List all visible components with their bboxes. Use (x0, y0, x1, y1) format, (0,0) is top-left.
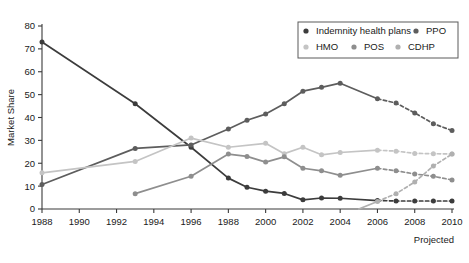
data-point-1-3 (226, 126, 231, 131)
data-point-0-12 (412, 198, 417, 203)
data-point-2-1 (133, 159, 138, 164)
legend-marker-0 (303, 28, 308, 33)
data-point-3-13 (450, 177, 455, 182)
data-point-3-10 (394, 168, 399, 173)
data-point-0-9 (338, 196, 343, 201)
data-point-1-5 (263, 112, 268, 117)
data-point-2-2 (189, 136, 194, 141)
data-point-1-8 (319, 85, 324, 90)
data-point-4-2 (394, 191, 399, 196)
x-tick-label: 2008 (404, 216, 425, 227)
y-axis-title: Market Share (5, 89, 16, 146)
x-tick-label: 2010 (441, 216, 462, 227)
data-point-0-1 (133, 101, 138, 106)
legend-marker-3 (351, 44, 356, 49)
data-point-4-5 (450, 152, 455, 157)
data-point-4-3 (412, 180, 417, 185)
data-point-1-9 (338, 81, 343, 86)
y-tick-label: 80 (24, 20, 35, 31)
x-tick-label: 2004 (330, 216, 351, 227)
x-tick-label: 1994 (143, 216, 164, 227)
x-tick-label: 1996 (181, 216, 202, 227)
data-point-2-4 (263, 141, 268, 146)
y-tick-label: 20 (24, 158, 35, 169)
data-point-0-7 (300, 197, 305, 202)
data-point-3-11 (412, 172, 417, 177)
data-point-3-9 (375, 166, 380, 171)
data-point-0-3 (226, 176, 231, 181)
x-tick-label: 1992 (106, 216, 127, 227)
x-tick-label: 1990 (69, 216, 90, 227)
data-point-3-3 (245, 154, 250, 159)
data-point-1-2 (189, 142, 194, 147)
data-point-2-12 (431, 151, 436, 156)
data-point-2-0 (40, 170, 45, 175)
data-point-0-13 (431, 198, 436, 203)
legend-label-2: HMO (316, 41, 338, 52)
data-point-1-14 (450, 128, 455, 133)
data-point-2-11 (412, 151, 417, 156)
data-point-4-1 (375, 199, 380, 204)
data-point-1-1 (133, 146, 138, 151)
data-point-3-4 (263, 160, 268, 165)
x-tick-label: 2002 (292, 216, 313, 227)
data-point-3-5 (282, 154, 287, 159)
data-point-2-6 (300, 145, 305, 150)
legend-marker-2 (303, 44, 308, 49)
data-point-2-10 (394, 149, 399, 154)
data-point-0-14 (450, 198, 455, 203)
data-point-0-5 (263, 189, 268, 194)
data-point-3-1 (189, 174, 194, 179)
legend-marker-4 (395, 44, 400, 49)
data-point-1-7 (300, 89, 305, 94)
data-point-0-0 (40, 40, 45, 45)
legend-label-3: POS (364, 41, 384, 52)
data-point-3-7 (319, 168, 324, 173)
data-point-2-3 (226, 145, 231, 150)
legend-marker-1 (413, 28, 418, 33)
legend-label-4: CDHP (408, 41, 435, 52)
y-tick-label: 0 (30, 203, 35, 214)
data-point-1-4 (245, 118, 250, 123)
data-point-1-10 (375, 96, 380, 101)
series-line-0 (42, 42, 377, 201)
data-point-3-0 (133, 191, 138, 196)
data-point-2-8 (338, 150, 343, 155)
data-point-3-12 (431, 174, 436, 179)
series-line-4 (359, 201, 378, 209)
data-point-1-0 (40, 182, 45, 187)
x-tick-label: 1988 (31, 216, 52, 227)
data-point-3-2 (226, 152, 231, 157)
data-point-1-6 (282, 101, 287, 106)
data-point-0-8 (319, 196, 324, 201)
legend-label-1: PPO (426, 25, 446, 36)
data-point-0-4 (245, 185, 250, 190)
x-tick-label: 2006 (367, 216, 388, 227)
data-point-0-11 (394, 198, 399, 203)
data-point-0-6 (282, 191, 287, 196)
y-tick-label: 40 (24, 112, 35, 123)
y-tick-label: 10 (24, 181, 35, 192)
data-point-3-6 (300, 166, 305, 171)
y-tick-label: 50 (24, 89, 35, 100)
series-line-1 (42, 83, 377, 184)
data-point-3-8 (338, 173, 343, 178)
x-tick-label: 1988 (218, 216, 239, 227)
data-point-1-12 (412, 110, 417, 115)
y-tick-label: 70 (24, 43, 35, 54)
y-tick-label: 60 (24, 66, 35, 77)
chart-canvas: 0102030405060708019881990199219941996198… (0, 0, 469, 263)
data-point-1-11 (394, 101, 399, 106)
x-tick-label: 2000 (255, 216, 276, 227)
data-point-2-9 (375, 148, 380, 153)
data-point-4-4 (431, 163, 436, 168)
data-point-2-7 (319, 152, 324, 157)
data-point-1-13 (431, 121, 436, 126)
market-share-line-chart: 0102030405060708019881990199219941996198… (0, 0, 469, 263)
projected-annotation: Projected (414, 234, 454, 245)
series-line-2 (42, 138, 377, 173)
y-tick-label: 30 (24, 135, 35, 146)
legend-label-0: Indemnity health plans (316, 25, 411, 36)
